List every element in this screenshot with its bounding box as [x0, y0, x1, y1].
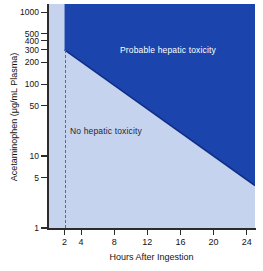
x-tick [64, 229, 65, 235]
y-tick [41, 155, 47, 156]
y-tick-label: 100 [25, 79, 39, 89]
x-tick-label: 8 [112, 237, 117, 247]
treatment-line [48, 4, 255, 228]
no-hepatic-toxicity-label: No hepatic toxicity [70, 126, 142, 136]
x-axis-title: Hours After Ingestion [48, 252, 255, 262]
y-tick [41, 227, 47, 228]
y-tick [41, 49, 47, 50]
x-tick [81, 229, 82, 235]
x-tick [246, 229, 247, 235]
x-tick [114, 229, 115, 235]
x-tick-label: 12 [142, 237, 152, 247]
y-tick [41, 62, 47, 63]
x-tick [180, 229, 181, 235]
four-hour-reference-line [65, 50, 66, 228]
y-tick-label: 5 [34, 173, 39, 183]
y-tick-label: 1000 [20, 7, 39, 17]
probable-hepatic-toxicity-label: Probable hepatic toxicity [120, 45, 216, 55]
y-tick [41, 33, 47, 34]
y-axis-title: Acetaminophen (μg/mL Plasma) [9, 7, 19, 227]
y-tick [41, 12, 47, 13]
x-tick [147, 229, 148, 235]
nomogram-figure: Probable hepatic toxicity No hepatic tox… [0, 0, 263, 271]
x-tick-label: 4 [79, 237, 84, 247]
plot-area: Probable hepatic toxicity No hepatic tox… [48, 4, 255, 228]
y-axis-line [47, 4, 49, 229]
y-tick-label: 300 [25, 45, 39, 55]
x-tick [213, 229, 214, 235]
y-tick [41, 177, 47, 178]
y-tick-label: 500 [25, 29, 39, 39]
x-axis-line [47, 228, 256, 230]
x-tick-label: 2 [62, 237, 67, 247]
y-tick-label: 10 [30, 151, 39, 161]
x-tick-label: 20 [209, 237, 219, 247]
y-tick-label: 1 [34, 223, 39, 233]
y-tick [41, 40, 47, 41]
x-tick-label: 24 [242, 237, 252, 247]
y-tick-label: 50 [30, 101, 39, 111]
x-tick-label: 16 [175, 237, 185, 247]
y-tick [41, 105, 47, 106]
y-tick [41, 84, 47, 85]
y-tick-label: 200 [25, 57, 39, 67]
